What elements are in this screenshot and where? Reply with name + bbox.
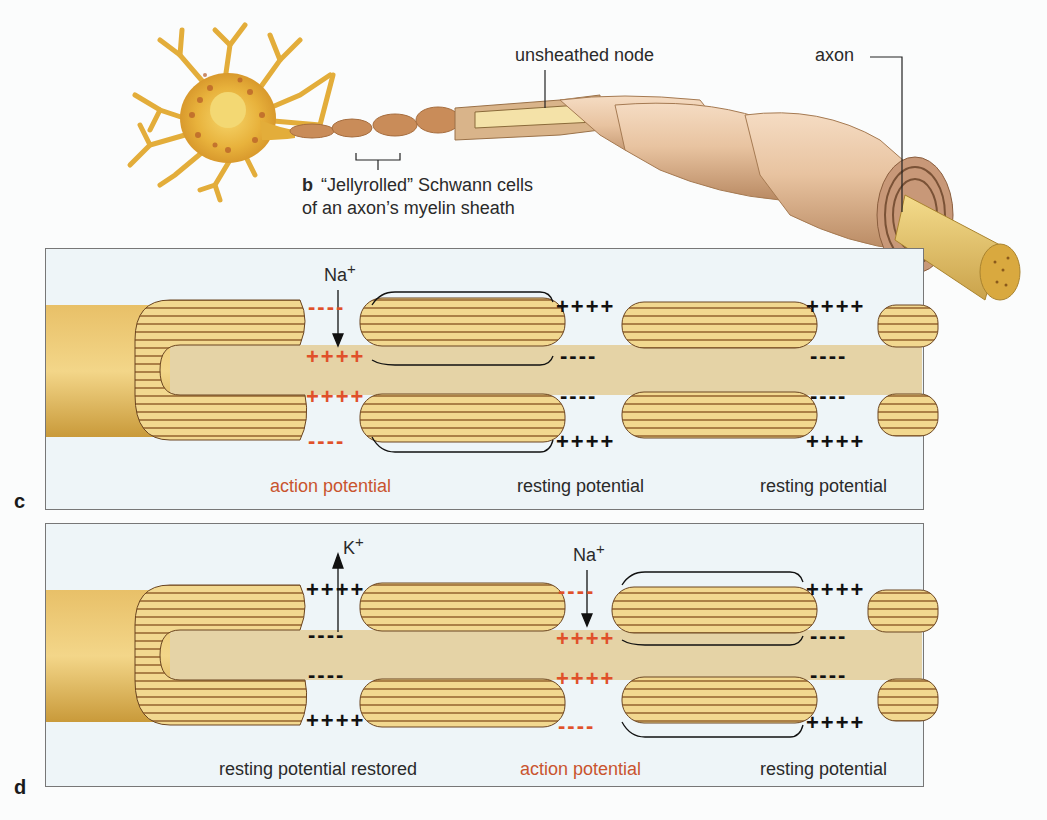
panel-c-letter: c <box>14 490 25 513</box>
panel-d-node2-outer-bottom-charge: ---- <box>558 715 595 737</box>
panel-d-node2-inner-bottom-charge: ++++ <box>556 668 615 690</box>
panel-c-node3-outer-bottom-charge: ++++ <box>806 431 865 453</box>
panel-d-resting-restored-label: resting potential restored <box>219 759 417 780</box>
panel-b-caption-line2: of an axon’s myelin sheath <box>302 198 515 219</box>
panel-c-resting-potential-label-2: resting potential <box>760 476 887 497</box>
panel-d-node3-outer-bottom-charge: ++++ <box>806 712 865 734</box>
panel-d-k-ion-label: K+ <box>343 533 364 559</box>
panel-d-node2-inner-top-charge: ++++ <box>556 628 615 650</box>
panel-c-node2-outer-charge: ++++ <box>556 296 615 318</box>
label-unsheathed-node: unsheathed node <box>515 45 654 66</box>
panel-d-node1-outer-bottom-charge: ++++ <box>306 710 365 732</box>
panel-c-node1-outer-bottom-charge: ---- <box>308 430 345 452</box>
panel-c-node1-inner-top-charge: ++++ <box>306 346 365 368</box>
panel-c-node2-outer-bottom-charge: ++++ <box>556 431 615 453</box>
panel-d-node3-inner-top-charge: ---- <box>810 625 847 647</box>
panel-c-node3-inner-bottom-charge: ---- <box>810 385 847 407</box>
panel-d-node3-inner-bottom-charge: ---- <box>810 664 847 686</box>
panel-b-letter: b <box>302 175 313 195</box>
panel-c-node2-inner-bottom-charge: ---- <box>560 385 597 407</box>
panel-d-na-ion-label: Na+ <box>573 540 605 566</box>
panel-d-resting-potential-label: resting potential <box>760 759 887 780</box>
panel-d <box>45 523 924 787</box>
panel-d-node2-outer-charge: ---- <box>558 580 595 602</box>
panel-c-node3-inner-top-charge: ---- <box>810 345 847 367</box>
panel-c-resting-potential-label-1: resting potential <box>517 476 644 497</box>
panel-c-ion-label: Na+ <box>324 260 356 286</box>
panel-d-node1-outer-charge: ++++ <box>306 579 365 601</box>
label-axon: axon <box>815 45 854 66</box>
panel-c-node1-outer-charge: ---- <box>308 296 345 318</box>
panel-c-node1-inner-bottom-charge: ++++ <box>306 386 365 408</box>
panel-d-action-potential-label: action potential <box>520 759 641 780</box>
panel-d-node3-outer-charge: ++++ <box>806 579 865 601</box>
panel-c-node3-outer-charge: ++++ <box>806 296 865 318</box>
panel-b-caption-line1: b“Jellyrolled” Schwann cells <box>302 175 533 196</box>
panel-d-node1-inner-top-charge: ---- <box>308 624 345 646</box>
panel-d-letter: d <box>14 776 26 799</box>
panel-d-node1-inner-bottom-charge: ---- <box>308 664 345 686</box>
panel-c <box>45 248 924 510</box>
panel-c-node2-inner-top-charge: ---- <box>560 345 597 367</box>
panel-b-caption-text: “Jellyrolled” Schwann cells <box>321 175 533 195</box>
panel-c-action-potential-label: action potential <box>270 476 391 497</box>
